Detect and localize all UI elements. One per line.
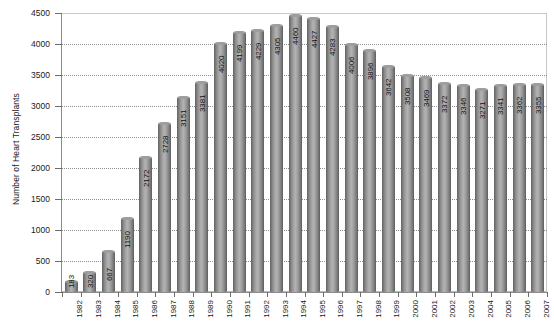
bar[interactable]: 3341 <box>494 85 507 292</box>
bar-value-label: 3355 <box>533 97 542 114</box>
y-tick <box>55 13 62 14</box>
y-tick <box>55 106 62 107</box>
x-axis-label: 2007 <box>542 300 551 318</box>
bar[interactable]: 3508 <box>401 75 414 292</box>
x-tick <box>454 292 455 297</box>
x-tick <box>267 292 268 297</box>
bar-body <box>494 84 507 292</box>
bar[interactable]: 183 <box>65 281 78 292</box>
bar[interactable]: 2172 <box>139 157 152 292</box>
bar-value-label: 3151 <box>179 109 188 126</box>
x-tick <box>360 292 361 297</box>
x-axis-label: 1990 <box>225 300 234 318</box>
bar-body <box>289 14 302 292</box>
bar[interactable]: 3469 <box>419 77 432 292</box>
bar[interactable]: 4006 <box>345 44 358 292</box>
bar-value-label: 4305 <box>272 38 281 55</box>
x-tick <box>137 292 138 297</box>
bar[interactable]: 4020 <box>214 43 227 292</box>
bar[interactable]: 1190 <box>121 218 134 292</box>
bar[interactable]: 3151 <box>177 97 190 292</box>
bar-value-label: 667 <box>104 268 113 281</box>
bar-value-label: 3381 <box>197 95 206 112</box>
x-axis-label: 2004 <box>486 300 495 318</box>
bar-value-label: 183 <box>67 275 76 288</box>
bar[interactable]: 3896 <box>363 50 376 292</box>
bar[interactable]: 667 <box>102 251 115 292</box>
bar-body <box>401 74 414 292</box>
y-tick-label: 3000 <box>0 101 50 111</box>
x-tick <box>491 292 492 297</box>
chart-container: Number of Heart Transplants 050010001500… <box>0 0 554 333</box>
bar[interactable]: 3642 <box>382 66 395 292</box>
x-axis-label: 1999 <box>392 300 401 318</box>
x-tick <box>379 292 380 297</box>
x-axis-label: 1994 <box>299 300 308 318</box>
x-tick <box>305 292 306 297</box>
bar[interactable]: 4199 <box>233 32 246 292</box>
bar[interactable]: 3372 <box>438 83 451 292</box>
y-tick <box>55 261 62 262</box>
x-tick <box>230 292 231 297</box>
bar-body <box>307 17 320 292</box>
bar-value-label: 4229 <box>253 42 262 59</box>
x-axis-label: 2002 <box>448 300 457 318</box>
x-tick <box>398 292 399 297</box>
x-tick <box>416 292 417 297</box>
bar[interactable]: 4283 <box>326 26 339 292</box>
bar-value-label: 4460 <box>291 28 300 45</box>
bar-value-label: 4427 <box>309 30 318 47</box>
bar[interactable]: 4460 <box>289 15 302 292</box>
bar-value-label: 3341 <box>496 97 505 114</box>
x-axis-label: 1992 <box>262 300 271 318</box>
x-tick <box>155 292 156 297</box>
x-tick <box>193 292 194 297</box>
bar-value-label: 3508 <box>403 87 412 104</box>
x-axis-label: 1982 <box>75 300 84 318</box>
bar-body <box>214 42 227 292</box>
x-tick <box>547 292 548 297</box>
y-tick <box>55 230 62 231</box>
x-axis-label: 2001 <box>430 300 439 318</box>
x-tick <box>62 292 63 297</box>
bar[interactable]: 4427 <box>307 18 320 292</box>
x-axis-label: 1987 <box>169 300 178 318</box>
bar[interactable]: 2728 <box>158 123 171 292</box>
bar-body <box>345 43 358 292</box>
bar-body <box>121 217 134 292</box>
x-tick <box>342 292 343 297</box>
y-tick-label: 4000 <box>0 39 50 49</box>
bar-value-label: 3346 <box>459 97 468 114</box>
bar[interactable]: 3346 <box>457 85 470 292</box>
bar[interactable]: 320 <box>83 272 96 292</box>
x-axis-label: 1997 <box>355 300 364 318</box>
bar[interactable]: 4229 <box>251 30 264 292</box>
x-tick <box>174 292 175 297</box>
x-axis-label: 1985 <box>131 300 140 318</box>
bar-series: 1833206671190217227283151338140204199422… <box>62 13 547 292</box>
x-axis-label: 1983 <box>94 300 103 318</box>
bar-value-label: 3896 <box>365 63 374 80</box>
bar-body <box>531 83 544 292</box>
bar[interactable]: 3355 <box>531 84 544 292</box>
y-tick-label: 2500 <box>0 132 50 142</box>
bar[interactable]: 4305 <box>270 25 283 292</box>
x-axis-label: 2006 <box>523 300 532 318</box>
y-tick <box>55 44 62 45</box>
bar-body <box>326 25 339 292</box>
x-tick <box>99 292 100 297</box>
y-tick-label: 500 <box>0 256 50 266</box>
bar[interactable]: 3381 <box>195 82 208 292</box>
bar-body <box>270 24 283 292</box>
y-tick <box>55 292 62 293</box>
x-tick <box>472 292 473 297</box>
x-axis-label: 2003 <box>467 300 476 318</box>
x-tick <box>249 292 250 297</box>
x-axis-label: 1986 <box>150 300 159 318</box>
bar[interactable]: 3362 <box>513 84 526 292</box>
bar-value-label: 4006 <box>347 56 356 73</box>
x-axis-label: 1996 <box>336 300 345 318</box>
bar[interactable]: 3271 <box>475 89 488 292</box>
y-tick <box>55 168 62 169</box>
bar-value-label: 4020 <box>216 55 225 72</box>
